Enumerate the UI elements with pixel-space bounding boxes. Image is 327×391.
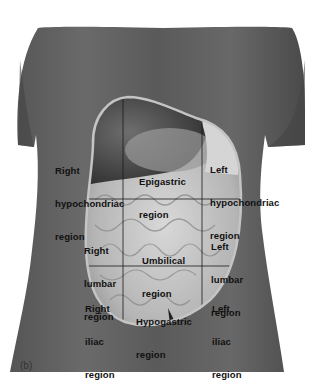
label-line: Right — [55, 165, 124, 176]
label-line: region — [212, 369, 242, 380]
label-line: iliac — [212, 336, 242, 347]
label-line: hypochondriac — [55, 198, 124, 209]
label-right-iliac: Right iliac region — [85, 281, 115, 391]
label-line: Left — [211, 241, 243, 252]
label-line: Left — [212, 303, 242, 314]
label-line: Left — [210, 164, 279, 175]
label-line: Right — [84, 245, 116, 256]
label-line: Hypogastric — [136, 316, 192, 327]
abdominal-regions-figure: Right hypochondriac region Epigastric re… — [0, 0, 327, 391]
label-line: Right — [85, 303, 115, 314]
panel-label: (b) — [20, 360, 32, 371]
label-line: region — [139, 209, 186, 220]
label-line: region — [136, 349, 192, 360]
label-line: Epigastric — [139, 176, 186, 187]
label-line: region — [85, 369, 115, 380]
label-left-iliac: Left iliac region — [212, 281, 242, 391]
label-line: iliac — [85, 336, 115, 347]
label-hypogastric: Hypogastric region — [136, 294, 192, 382]
label-line: Umbilical — [142, 255, 185, 266]
label-line: hypochondriac — [210, 197, 279, 208]
label-epigastric: Epigastric region — [139, 154, 186, 242]
